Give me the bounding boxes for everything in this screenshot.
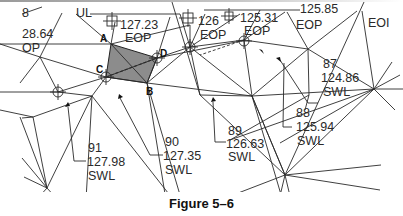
label-eop-2: EOP [200,28,226,42]
label-ul: UL [76,6,92,20]
label-eop-3: EOP [244,24,270,38]
point-91-desc: SWL [88,169,115,183]
label-127-23: 127.23 [120,18,158,32]
label-eop-4: EOP [296,18,322,32]
label-125-31: 125.31 [240,11,278,25]
vertex-label-a: A [100,33,107,44]
square-marker-1 [103,12,121,30]
vertex-label-c: C [96,64,103,75]
point-89-id: 89 [228,124,242,138]
label-left-top: 8 [22,6,29,20]
label-126: 126 [198,14,219,28]
point-87-desc: SWL [323,85,350,99]
arrowheads [65,49,281,107]
vertex-label-b: B [146,86,153,97]
point-90-elevation: 127.35 [163,149,201,163]
point-89-desc: SWL [228,150,255,164]
point-91-id: 91 [88,141,102,155]
point-91: 91 127.98 SWL [87,141,125,183]
point-87-elevation: 124.86 [321,71,359,85]
point-88: 88 125.94 SWL [296,106,334,148]
label-left-num: 28.64 [22,27,53,41]
point-87: 87 124.86 SWL [321,57,359,99]
point-88-desc: SWL [297,134,324,148]
vertex-label-d: D [160,48,167,59]
leader-lines [68,60,318,161]
marker-3 [50,84,66,100]
label-eoi: EOI [368,16,390,30]
point-90-desc: SWL [165,163,192,177]
label-left-desc: OP [22,41,40,55]
tin-surface-drawing: A B C D 8 28.64 OP UL 127.23 EOP 126 EOP… [0,0,403,192]
point-91-elevation: 127.98 [87,155,125,169]
point-87-id: 87 [323,57,337,71]
label-125-85: 125.85 [300,2,338,16]
label-eop-1: EOP [125,31,151,45]
point-90: 90 127.35 SWL [163,135,201,177]
point-88-id: 88 [296,106,310,120]
point-89-elevation: 126.63 [226,137,264,151]
point-88-elevation: 125.94 [296,120,334,134]
square-marker-2 [179,9,197,27]
point-90-id: 90 [165,135,179,149]
figure-caption: Figure 5–6 [0,196,403,211]
